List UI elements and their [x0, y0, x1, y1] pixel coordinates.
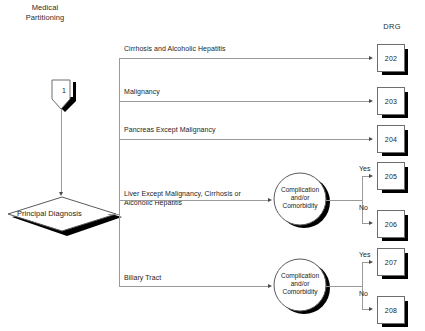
- branch-label-biliary: Biliary Tract: [124, 274, 161, 283]
- start-node-label: 1: [58, 87, 70, 94]
- arrowhead-pancreas: [369, 137, 373, 141]
- branch-line-malignancy: [119, 101, 371, 102]
- diagram-title: Medical Partitioning: [10, 3, 80, 22]
- cc1-yes-label: Yes: [359, 165, 371, 172]
- cc-node-2[interactable]: Complication and/or Comorbidity: [273, 258, 333, 316]
- branch-line-liver: [119, 200, 270, 201]
- drg-box-202[interactable]: 202: [377, 44, 405, 72]
- arrowhead-biliary: [268, 284, 272, 288]
- cc-node-1[interactable]: Complication and/or Comorbidity: [273, 172, 333, 230]
- arrowhead-cc1-no: [369, 221, 373, 225]
- drg-box-label: 205: [385, 173, 397, 180]
- branch-line-pancreas: [119, 139, 371, 140]
- drg-box-204[interactable]: 204: [377, 125, 405, 153]
- drg-box-label: 203: [385, 98, 397, 105]
- cc-node-1-label: Complication and/or Comorbidity: [274, 186, 326, 211]
- start-node[interactable]: 1: [47, 79, 81, 115]
- cc1-split-line: [362, 176, 363, 224]
- drg-box-203[interactable]: 203: [377, 87, 405, 115]
- drg-box-205[interactable]: 205: [377, 162, 405, 190]
- arrowhead-cc1-yes: [369, 174, 373, 178]
- cc2-yes-label: Yes: [359, 251, 371, 258]
- diamond-icon: [5, 196, 125, 240]
- branch-label-malignancy: Malignancy: [124, 88, 160, 97]
- drg-box-208[interactable]: 208: [377, 296, 405, 324]
- drg-box-label: 204: [385, 136, 397, 143]
- cc1-output-line: [326, 200, 362, 201]
- drg-column-header: DRG: [378, 22, 406, 31]
- branch-line-biliary: [119, 286, 270, 287]
- cc2-split-line: [362, 262, 363, 310]
- arrowhead-cirrhosis: [369, 56, 373, 60]
- main-trunk-line: [119, 58, 120, 286]
- drg-box-207[interactable]: 207: [377, 248, 405, 276]
- decision-node-label: Principal Diagnosis: [17, 209, 82, 218]
- branch-label-cirrhosis: Cirrhosis and Alcoholic Hepatitis: [124, 45, 226, 54]
- drg-box-label: 208: [385, 307, 397, 314]
- drg-box-label: 202: [385, 55, 397, 62]
- branch-line-cirrhosis: [119, 58, 371, 59]
- cc1-no-label: No: [359, 204, 368, 211]
- drg-box-206[interactable]: 206: [377, 210, 405, 238]
- connector-start-to-decision: [61, 109, 62, 194]
- cc2-output-line: [326, 286, 362, 287]
- decision-node[interactable]: Principal Diagnosis: [5, 196, 125, 240]
- cc2-no-label: No: [359, 290, 368, 297]
- arrowhead-malignancy: [369, 99, 373, 103]
- cc-node-2-label: Complication and/or Comorbidity: [274, 272, 326, 297]
- branch-label-liver: Liver Except Malignancy, Cirrhosis or Al…: [124, 190, 241, 207]
- flowchart-canvas: Medical Partitioning DRG 1 Principal Dia…: [0, 0, 425, 331]
- arrowhead-cc2-yes: [369, 260, 373, 264]
- drg-box-label: 207: [385, 259, 397, 266]
- arrowhead-cc2-no: [369, 307, 373, 311]
- drg-box-label: 206: [385, 221, 397, 228]
- arrowhead-liver: [268, 198, 272, 202]
- branch-label-pancreas: Pancreas Except Malignancy: [124, 126, 216, 135]
- pentagon-connector-icon: [47, 79, 81, 115]
